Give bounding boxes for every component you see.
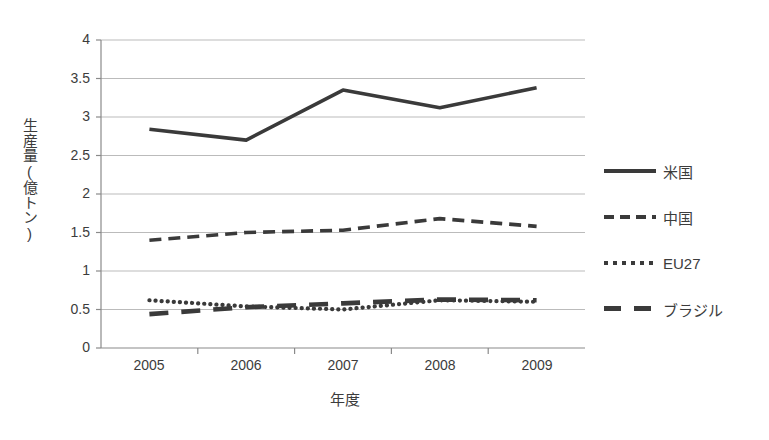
gridlines (101, 40, 585, 310)
line-chart: 生産量(億トン) 4 3.5 3 2.5 2 1.5 1 0.5 0 2005 … (0, 0, 769, 440)
y-axis-tick-labels: 4 3.5 3 2.5 2 1.5 1 0.5 0 (52, 0, 90, 440)
y-tick-label: 4 (56, 31, 90, 47)
x-tick-label: 2005 (114, 357, 184, 373)
legend-swatch-dashed-icon (604, 210, 656, 224)
legend-swatch-dotted-icon (604, 256, 656, 270)
x-tick-label: 2007 (308, 357, 378, 373)
y-tick-label: 3.5 (56, 70, 90, 86)
legend-item-eu27: EU27 (604, 240, 764, 286)
y-tick-label: 2 (56, 185, 90, 201)
x-tick-label: 2006 (211, 357, 281, 373)
legend-item-chugoku: 中国 (604, 194, 764, 240)
chart-legend: 米国 中国 EU27 ブラジル (604, 148, 764, 332)
x-tick-label: 2009 (502, 357, 572, 373)
y-tick-label: 1 (56, 262, 90, 278)
x-axis-title: 年度 (300, 388, 390, 409)
y-tick-label: 2.5 (56, 147, 90, 163)
legend-label: EU27 (663, 255, 701, 272)
data-series-group (149, 88, 536, 314)
y-tick-label: 0.5 (56, 301, 90, 317)
x-tick-label: 2008 (405, 357, 475, 373)
legend-label: 中国 (663, 207, 693, 228)
y-axis-title: 生産量(億トン) (14, 118, 40, 242)
y-tick-label: 0 (56, 339, 90, 355)
legend-item-brazil: ブラジル (604, 286, 764, 332)
legend-item-beikoku: 米国 (604, 148, 764, 194)
legend-label: ブラジル (663, 299, 723, 320)
y-tick-label: 1.5 (56, 224, 90, 240)
y-tick-label: 3 (56, 108, 90, 124)
legend-label: 米国 (663, 161, 693, 182)
legend-swatch-solid-icon (604, 164, 656, 178)
legend-swatch-long-dash-icon (604, 302, 656, 316)
